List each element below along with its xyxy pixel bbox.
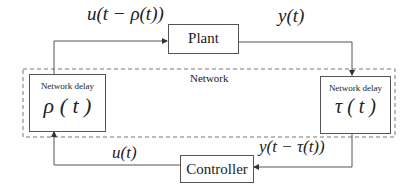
controller-label: Controller	[181, 161, 253, 178]
controller-output-signal: u(t)	[112, 143, 137, 163]
plant-output-signal: y(t)	[278, 5, 304, 27]
network-delay-right-block: Network delay τ ( t )	[320, 76, 391, 134]
network-delay-left-symbol: ρ ( t )	[30, 93, 105, 119]
network-label: Network	[190, 72, 229, 84]
controller-input-signal: y(t − τ(t))	[259, 137, 325, 157]
network-delay-right-title: Network delay	[321, 83, 390, 93]
plant-label: Plant	[169, 30, 238, 47]
network-delay-right-symbol: τ ( t )	[321, 95, 390, 118]
plant-input-signal: u(t − ρ(t))	[87, 3, 164, 25]
network-delay-left-title: Network delay	[30, 81, 105, 91]
controller-block: Controller	[180, 155, 254, 183]
arrow-to-right-delay	[238, 42, 352, 75]
network-delay-left-block: Network delay ρ ( t )	[29, 74, 106, 132]
plant-block: Plant	[168, 24, 239, 54]
